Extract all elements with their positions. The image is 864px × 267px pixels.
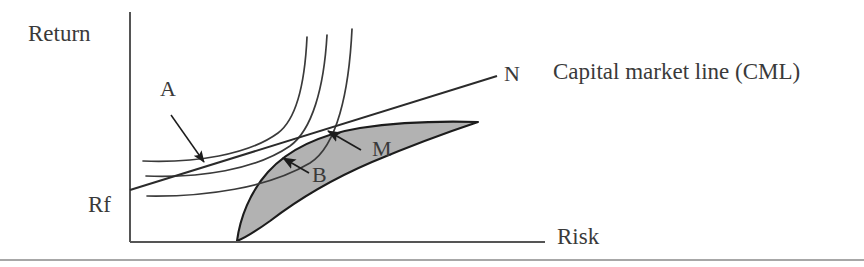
arrow-a <box>171 115 204 162</box>
cml-legend-label: Capital market line (CML) <box>553 60 800 83</box>
cml-figure: Return Rf Risk A B M N Capital market li… <box>0 0 864 267</box>
y-axis-label: Return <box>28 22 91 45</box>
label-a: A <box>160 78 176 100</box>
feasible-set-region <box>237 122 478 241</box>
label-n: N <box>504 63 520 85</box>
figure-canvas <box>0 0 864 267</box>
label-m: M <box>372 138 392 160</box>
risk-free-rate-label: Rf <box>88 193 111 216</box>
label-b: B <box>312 164 327 186</box>
x-axis-label: Risk <box>557 225 599 248</box>
